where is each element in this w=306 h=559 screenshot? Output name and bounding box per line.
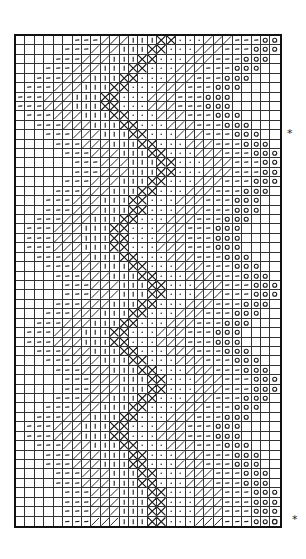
- chart-cell-bar: [82, 243, 91, 252]
- dash-symbol-icon: [195, 243, 203, 251]
- chart-cell-empty: [44, 290, 53, 299]
- slash-symbol-icon: [214, 168, 222, 176]
- chart-cell-slash: [110, 45, 119, 54]
- chart-cell-empty: [252, 215, 261, 224]
- chart-cell-empty: [35, 366, 44, 375]
- dot-symbol-icon: [129, 338, 137, 346]
- chart-cell-slash: [44, 93, 53, 102]
- chart-cell-dash: [44, 347, 53, 356]
- slash-symbol-icon: [195, 309, 203, 317]
- chart-cell-dot: [176, 300, 185, 309]
- chart-cell-dash: [44, 130, 53, 139]
- dash-symbol-icon: [63, 366, 71, 374]
- chart-cell-dot: [129, 243, 138, 252]
- slash-symbol-icon: [186, 206, 194, 214]
- chart-cell-dash: [204, 413, 213, 422]
- chart-cell-slash: [195, 130, 204, 139]
- dash-symbol-icon: [214, 403, 222, 411]
- chart-cell-empty: [270, 338, 279, 347]
- chart-cell-slash: [195, 206, 204, 215]
- chart-cell-empty: [35, 498, 44, 507]
- chart-cell-empty: [270, 432, 279, 441]
- chart-cell-slash: [186, 413, 195, 422]
- chart-cell-slash: [167, 413, 176, 422]
- circle-symbol-icon: [270, 385, 279, 393]
- slash-symbol-icon: [167, 319, 175, 327]
- chart-cell-slash: [186, 300, 195, 309]
- chart-cell-dash: [233, 469, 242, 478]
- dot-symbol-icon: [148, 413, 156, 421]
- chart-cell-dash: [82, 290, 91, 299]
- slash-symbol-icon: [91, 517, 99, 526]
- dot-symbol-icon: [167, 460, 175, 468]
- dash-symbol-icon: [44, 403, 52, 411]
- chart-cell-circle: [214, 422, 223, 431]
- chart-cell-dash: [35, 338, 44, 347]
- dot-symbol-icon: [167, 403, 175, 411]
- dot-symbol-icon: [148, 215, 156, 223]
- dot-symbol-icon: [129, 243, 137, 251]
- chart-cell-dash: [63, 394, 72, 403]
- circle-symbol-icon: [252, 177, 260, 185]
- bar-symbol-icon: [91, 74, 99, 82]
- dot-symbol-icon: [186, 507, 194, 515]
- dash-symbol-icon: [82, 375, 90, 383]
- bar-symbol-icon: [129, 281, 137, 289]
- chart-cell-dash: [204, 262, 213, 271]
- chart-cell-circle: [261, 479, 270, 488]
- dot-symbol-icon: [176, 290, 184, 298]
- chart-cell-empty: [25, 347, 34, 356]
- dash-symbol-icon: [223, 375, 231, 383]
- dash-symbol-icon: [44, 121, 52, 129]
- chart-cell-bar: [91, 224, 100, 233]
- chart-cell-cross: [101, 93, 110, 102]
- chart-cell-empty: [25, 488, 34, 497]
- chart-cell-slash: [204, 300, 213, 309]
- slash-symbol-icon: [73, 319, 81, 327]
- dash-symbol-icon: [35, 347, 43, 355]
- chart-cell-circle: [270, 498, 279, 507]
- slash-symbol-icon: [204, 517, 212, 526]
- circle-symbol-icon: [204, 93, 212, 101]
- chart-cell-circle: [233, 319, 242, 328]
- dash-symbol-icon: [54, 479, 62, 487]
- dash-symbol-icon: [204, 451, 212, 459]
- chart-cell-dot: [148, 224, 157, 233]
- chart-cell-empty: [25, 74, 34, 83]
- dash-symbol-icon: [54, 319, 62, 327]
- slash-symbol-icon: [204, 498, 212, 506]
- dot-symbol-icon: [129, 328, 137, 336]
- cross-symbol-icon: [110, 422, 118, 430]
- chart-cell-dash: [63, 375, 72, 384]
- slash-symbol-icon: [186, 309, 194, 317]
- dash-symbol-icon: [63, 130, 71, 138]
- chart-cell-dot: [167, 488, 176, 497]
- circle-symbol-icon: [270, 281, 279, 289]
- circle-symbol-icon: [223, 102, 231, 110]
- chart-cell-empty: [261, 111, 270, 120]
- chart-cell-slash: [176, 309, 185, 318]
- bar-symbol-icon: [120, 272, 128, 280]
- knitting-chart: [14, 34, 282, 528]
- chart-cell-empty: [54, 168, 63, 177]
- chart-cell-empty: [261, 338, 270, 347]
- slash-symbol-icon: [204, 140, 212, 148]
- chart-cell-empty: [25, 187, 34, 196]
- chart-cell-empty: [16, 281, 25, 290]
- chart-cell-dot: [167, 403, 176, 412]
- dash-symbol-icon: [82, 281, 90, 289]
- cross-symbol-icon: [148, 55, 156, 63]
- slash-symbol-icon: [63, 347, 71, 355]
- chart-cell-bar: [110, 460, 119, 469]
- dash-symbol-icon: [54, 64, 62, 72]
- chart-cell-slash: [204, 290, 213, 299]
- chart-cell-circle: [252, 309, 261, 318]
- slash-symbol-icon: [186, 347, 194, 355]
- slash-symbol-icon: [101, 168, 109, 176]
- chart-cell-empty: [25, 451, 34, 460]
- dash-symbol-icon: [223, 262, 231, 270]
- chart-cell-dash: [214, 272, 223, 281]
- chart-cell-cross: [148, 300, 157, 309]
- chart-cell-cross: [157, 158, 166, 167]
- chart-cell-slash: [204, 517, 213, 526]
